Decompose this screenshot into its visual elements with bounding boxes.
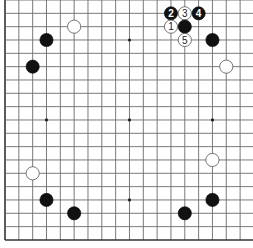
white-stone: 3 [178,7,191,20]
black-stone [178,20,191,33]
white-stone [206,153,219,166]
white-stone [220,60,233,73]
white-stone: 1 [164,20,177,33]
star-point [128,118,131,121]
black-stone-disc [26,60,39,73]
black-stone [26,60,39,73]
star-point [211,118,214,121]
white-stone-disc [26,167,39,180]
black-stone [40,33,53,46]
black-stone [206,33,219,46]
black-stone: 4 [192,7,205,20]
black-stone-disc [206,193,219,206]
white-stone-disc [68,20,81,33]
black-stone [40,193,53,206]
black-stone [206,193,219,206]
black-stone-disc [40,33,53,46]
white-stone [26,167,39,180]
black-stone-disc [178,20,191,33]
black-stone-disc [178,207,191,220]
move-number-label: 2 [168,8,174,19]
black-stone [178,207,191,220]
white-stone-disc [206,153,219,166]
white-stone [68,20,81,33]
star-point [128,198,131,201]
move-number-label: 1 [168,21,174,32]
star-point [128,38,131,41]
star-point [45,118,48,121]
white-stone: 5 [178,33,191,46]
move-number-label: 5 [182,35,188,46]
move-number-label: 4 [196,8,202,19]
move-number-label: 3 [182,8,188,19]
black-stone: 2 [164,7,177,20]
white-stone-disc [220,60,233,73]
black-stone-disc [68,207,81,220]
black-stone-disc [206,33,219,46]
black-stone [68,207,81,220]
go-board: 23415 [0,0,253,248]
black-stone-disc [40,193,53,206]
